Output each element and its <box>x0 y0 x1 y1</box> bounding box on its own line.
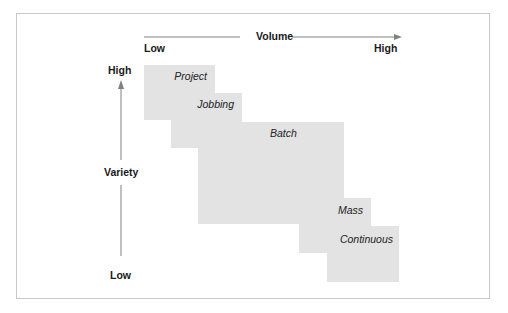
volume-axis-title: Volume <box>256 30 293 42</box>
volume-arrowhead-icon <box>394 34 402 40</box>
process-label: Project <box>174 70 207 82</box>
process-box-continuous: Continuous <box>327 226 399 282</box>
volume-high-label: High <box>374 42 397 54</box>
process-label: Jobbing <box>197 98 234 110</box>
process-label: Mass <box>338 204 363 216</box>
variety-high-label: High <box>108 64 131 76</box>
process-label: Batch <box>270 127 297 139</box>
process-label: Continuous <box>340 233 393 245</box>
variety-arrowhead-icon <box>118 80 124 89</box>
variety-low-label: Low <box>110 269 131 281</box>
volume-low-label: Low <box>144 42 165 54</box>
variety-axis-title: Variety <box>104 166 138 178</box>
